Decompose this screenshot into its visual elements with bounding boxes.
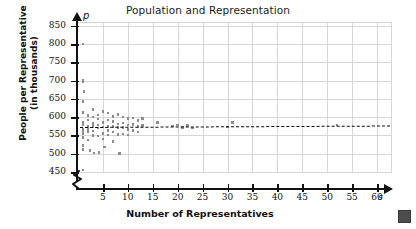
data-point <box>112 115 115 118</box>
x-axis-tick <box>377 184 379 192</box>
data-point <box>92 116 95 119</box>
y-axis-arrow-icon <box>72 12 82 21</box>
y-axis-tick-label: 750 <box>38 56 66 66</box>
data-point <box>107 112 110 115</box>
y-axis-tick-label: 550 <box>38 129 66 139</box>
x-axis-tick-label: 35 <box>241 192 263 202</box>
data-point <box>231 121 234 124</box>
gridline-horizontal <box>78 117 392 118</box>
y-axis-tick <box>71 135 79 137</box>
data-point <box>87 139 90 142</box>
gridline-horizontal <box>78 22 392 23</box>
x-axis-line <box>76 188 386 190</box>
x-axis-tick <box>153 184 155 192</box>
gridline-vertical <box>391 22 392 172</box>
data-point <box>122 133 125 136</box>
data-point <box>127 134 130 137</box>
chart-title: Population and Representation <box>0 4 416 16</box>
data-point <box>98 151 101 154</box>
y-axis-tick-label: 800 <box>38 38 66 48</box>
data-point <box>102 138 105 141</box>
x-axis-tick-label: 45 <box>291 192 313 202</box>
data-point <box>97 135 100 138</box>
data-point <box>132 129 135 132</box>
y-axis-variable: p <box>83 10 89 21</box>
gridline-horizontal <box>78 172 392 173</box>
y-axis-tick-label: 450 <box>38 166 66 176</box>
data-point <box>102 121 105 124</box>
data-point <box>137 131 140 134</box>
x-axis-tick-label: 60 <box>366 192 388 202</box>
y-axis-tick <box>71 62 79 64</box>
data-point <box>87 114 90 117</box>
data-point <box>117 133 120 136</box>
x-axis-tick-label: 10 <box>117 192 139 202</box>
x-axis-tick-label: 20 <box>167 192 189 202</box>
data-point <box>102 110 105 113</box>
y-axis-tick <box>71 81 79 83</box>
data-point <box>141 117 144 120</box>
y-axis-tick <box>71 154 79 156</box>
data-point <box>132 123 135 126</box>
y-axis-tick <box>71 99 79 101</box>
x-axis-tick <box>252 184 254 192</box>
y-axis-tick-label: 500 <box>38 148 66 158</box>
gridline-horizontal <box>78 26 392 27</box>
gridline-horizontal <box>78 62 392 63</box>
y-axis-tick <box>71 117 79 119</box>
x-axis-tick <box>352 184 354 192</box>
data-point <box>82 100 85 103</box>
y-axis-tick-label: 700 <box>38 75 66 85</box>
y-axis-tick <box>71 172 79 174</box>
x-axis-tick <box>203 184 205 192</box>
data-point <box>82 144 85 147</box>
x-axis-tick <box>128 184 130 192</box>
data-point <box>102 132 105 135</box>
data-point <box>97 118 100 121</box>
data-point <box>112 120 115 123</box>
x-axis-tick <box>302 184 304 192</box>
x-axis-tick-label: 30 <box>217 192 239 202</box>
data-point <box>82 148 85 151</box>
data-point <box>118 152 121 155</box>
data-point <box>156 121 159 124</box>
gridline-horizontal <box>78 99 392 100</box>
data-point <box>137 119 140 122</box>
x-axis-tick-label: 25 <box>192 192 214 202</box>
page-corner-square <box>398 210 411 223</box>
data-point <box>103 146 106 149</box>
data-point <box>122 116 125 119</box>
data-point <box>107 134 110 137</box>
x-axis-tick <box>228 184 230 192</box>
chart-figure: Population and Representation People per… <box>0 0 416 229</box>
y-axis-tick-label: 650 <box>38 93 66 103</box>
x-axis-tick-label: 55 <box>341 192 363 202</box>
data-point <box>82 132 85 135</box>
data-point <box>112 140 115 143</box>
data-point <box>107 119 110 122</box>
data-point <box>97 114 100 117</box>
y-axis-tick-label: 600 <box>38 111 66 121</box>
plot-area <box>78 22 392 172</box>
data-point <box>92 130 95 133</box>
data-point <box>117 123 120 126</box>
gridline-horizontal <box>78 44 392 45</box>
x-axis-tick <box>103 184 105 192</box>
gridline-horizontal <box>78 154 392 155</box>
y-axis-tick <box>71 26 79 28</box>
data-point <box>92 134 95 137</box>
y-axis-tick <box>71 44 79 46</box>
data-point <box>83 90 86 93</box>
x-axis-tick-label: 40 <box>266 192 288 202</box>
data-point <box>92 108 95 111</box>
x-axis-tick-label: 5 <box>92 192 114 202</box>
data-point <box>93 152 96 155</box>
data-point <box>82 111 85 114</box>
x-axis-label: Number of Representatives <box>60 208 340 219</box>
y-axis-tick-label: 850 <box>38 20 66 30</box>
x-axis-tick-label: 15 <box>142 192 164 202</box>
data-point <box>82 80 85 83</box>
data-point <box>89 149 92 152</box>
x-axis-tick-label: 50 <box>316 192 338 202</box>
data-point <box>87 130 90 133</box>
